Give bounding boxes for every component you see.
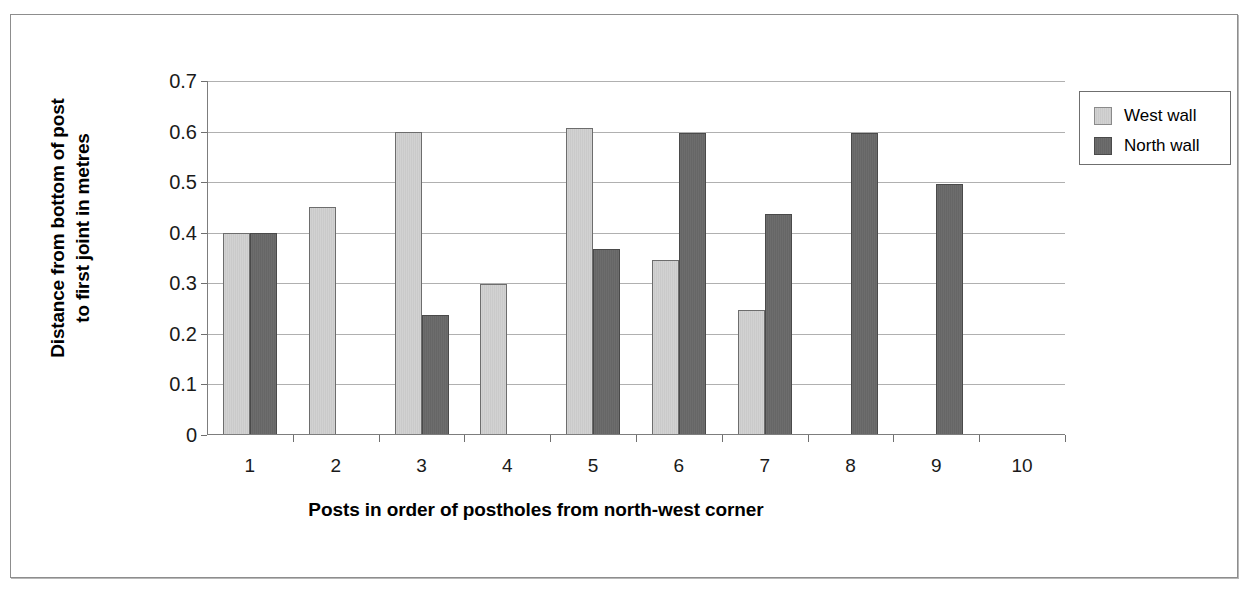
y-tick-label: 0.5 <box>151 172 197 192</box>
plot-axes <box>207 81 1065 435</box>
plot-area <box>207 81 1065 435</box>
y-axis-title: Distance from bottom of post to first jo… <box>45 63 101 393</box>
x-tick-label: 3 <box>392 455 452 477</box>
bar-chart: Distance from bottom of post to first jo… <box>11 15 1239 579</box>
x-axis-title: Posts in order of postholes from north-w… <box>11 499 1061 521</box>
legend-label: North wall <box>1124 136 1200 156</box>
x-tick-label: 9 <box>906 455 966 477</box>
legend-swatch-icon <box>1094 137 1112 155</box>
y-tick-label: 0 <box>151 425 197 445</box>
x-tick-mark <box>550 435 551 442</box>
y-axis-title-line-1: Distance from bottom of post <box>45 63 70 393</box>
x-tick-label: 2 <box>306 455 366 477</box>
legend-label: West wall <box>1124 106 1196 126</box>
y-tick-label: 0.7 <box>151 71 197 91</box>
y-axis-tick-labels: 00.10.20.30.40.50.60.7 <box>145 81 197 435</box>
x-tick-mark <box>636 435 637 442</box>
x-tick-mark <box>379 435 380 442</box>
chart-legend: West wallNorth wall <box>1079 91 1231 165</box>
x-tick-label: 8 <box>821 455 881 477</box>
y-axis-title-line-2: to first joint in metres <box>70 63 95 393</box>
figure-frame: Distance from bottom of post to first jo… <box>10 14 1238 578</box>
x-tick-mark <box>722 435 723 442</box>
legend-swatch-icon <box>1094 107 1112 125</box>
x-tick-label: 4 <box>477 455 537 477</box>
y-tick-label: 0.2 <box>151 324 197 344</box>
x-tick-label: 10 <box>992 455 1052 477</box>
x-tick-mark <box>1065 435 1066 442</box>
y-tick-label: 0.6 <box>151 122 197 142</box>
x-tick-label: 1 <box>220 455 280 477</box>
x-tick-label: 7 <box>735 455 795 477</box>
y-tick-label: 0.3 <box>151 273 197 293</box>
legend-item-north-wall: North wall <box>1094 135 1200 157</box>
x-tick-mark <box>979 435 980 442</box>
y-tick-label: 0.4 <box>151 223 197 243</box>
y-tick-mark <box>201 435 207 436</box>
x-tick-mark <box>464 435 465 442</box>
legend-item-west-wall: West wall <box>1094 105 1196 127</box>
x-tick-label: 6 <box>649 455 709 477</box>
x-tick-label: 5 <box>563 455 623 477</box>
x-tick-mark <box>893 435 894 442</box>
x-tick-mark <box>808 435 809 442</box>
y-tick-label: 0.1 <box>151 374 197 394</box>
x-tick-mark <box>293 435 294 442</box>
